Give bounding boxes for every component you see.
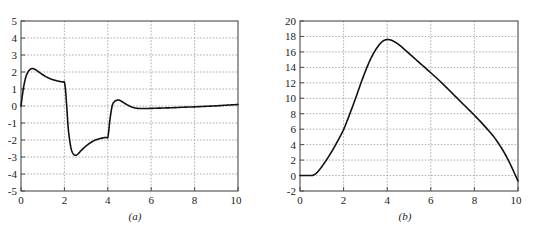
x-tick-label: 2	[341, 194, 347, 206]
plot-b-gridlines	[300, 21, 518, 191]
plot-a-y-tick-labels: 5 4 3 2 1 0 -1 -2 -3 -4 -5	[8, 15, 18, 197]
y-tick-label: 18	[285, 30, 297, 42]
y-tick-label: -1	[8, 117, 17, 129]
y-tick-label: 4	[291, 139, 297, 151]
y-tick-label: 20	[285, 15, 297, 27]
x-tick-label: 0	[18, 194, 24, 206]
y-tick-label: 0	[12, 100, 18, 112]
panel-b-caption: (b)	[270, 210, 540, 222]
x-tick-label: 4	[384, 194, 390, 206]
panel-b: 20 18 16 14 12 10 8 6 4 2 0 -2 0 2 4 6 8…	[270, 0, 540, 236]
plot-b-ticks	[300, 21, 518, 191]
y-tick-label: 6	[291, 123, 297, 135]
x-tick-label: 10	[511, 194, 523, 206]
x-tick-label: 10	[231, 194, 243, 206]
panel-a: 5 4 3 2 1 0 -1 -2 -3 -4 -5 0 2 4 6 8 10	[0, 0, 270, 236]
x-tick-label: 8	[192, 194, 198, 206]
plot-a-x-tick-labels: 0 2 4 6 8 10	[18, 194, 242, 206]
plot-a-svg: 5 4 3 2 1 0 -1 -2 -3 -4 -5 0 2 4 6 8 10	[0, 0, 270, 236]
y-tick-label: -5	[8, 185, 18, 197]
y-tick-label: 2	[12, 66, 18, 78]
data-curve-a	[21, 69, 238, 156]
y-tick-label: 1	[12, 83, 18, 95]
y-tick-label: 14	[285, 61, 297, 73]
y-tick-label: 2	[291, 154, 297, 166]
x-tick-label: 8	[472, 194, 478, 206]
plot-b-y-tick-labels: 20 18 16 14 12 10 8 6 4 2 0 -2	[285, 15, 297, 197]
y-tick-label: -2	[287, 185, 296, 197]
y-tick-label: 5	[12, 15, 18, 27]
y-tick-label: 8	[291, 108, 297, 120]
plot-b-frame	[300, 21, 518, 191]
x-tick-label: 0	[297, 194, 303, 206]
y-tick-label: -4	[8, 168, 18, 180]
y-tick-label: -3	[8, 151, 18, 163]
y-tick-label: -2	[8, 134, 17, 146]
y-tick-label: 0	[291, 170, 297, 182]
x-tick-label: 4	[105, 194, 111, 206]
panel-a-caption: (a)	[0, 210, 270, 222]
y-tick-label: 16	[285, 46, 297, 58]
x-tick-label: 2	[62, 194, 68, 206]
y-tick-label: 4	[12, 32, 18, 44]
y-tick-label: 3	[12, 49, 18, 61]
plot-a-data-layer	[21, 69, 238, 156]
x-tick-label: 6	[428, 194, 434, 206]
x-tick-label: 6	[148, 194, 154, 206]
figure-two-panel-plots: 5 4 3 2 1 0 -1 -2 -3 -4 -5 0 2 4 6 8 10	[0, 0, 540, 236]
plot-b-svg: 20 18 16 14 12 10 8 6 4 2 0 -2 0 2 4 6 8…	[270, 0, 540, 236]
plot-b-x-tick-labels: 0 2 4 6 8 10	[297, 194, 522, 206]
y-tick-label: 10	[285, 92, 297, 104]
y-tick-label: 12	[285, 77, 296, 89]
